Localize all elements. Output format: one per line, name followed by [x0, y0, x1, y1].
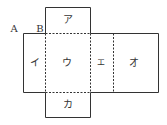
face-u-label: ウ: [62, 58, 72, 68]
face-e-label: エ: [97, 58, 105, 68]
box-net-diagram: [0, 0, 167, 125]
face-ka-label: カ: [63, 100, 73, 110]
face-a-label: ア: [63, 15, 73, 25]
face-o-label: オ: [129, 58, 139, 68]
point-a-label: A: [10, 24, 17, 34]
point-b-label: B: [36, 24, 43, 34]
face-i-label: イ: [30, 58, 40, 68]
